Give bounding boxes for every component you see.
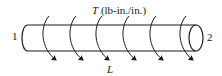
left-end-cap: [22, 25, 28, 51]
shaft-cylinder: [22, 25, 203, 51]
right-end-face: [189, 25, 203, 51]
torque-arrows: [43, 16, 193, 60]
torque-arrow-icon: [150, 16, 163, 60]
torque-symbol: T: [92, 4, 98, 16]
torque-arrow-icon: [123, 16, 136, 60]
torque-arrow-icon: [180, 16, 193, 60]
torque-arrow-icon: [43, 16, 56, 60]
torque-arrow-icon: [96, 16, 109, 60]
torque-arrow-icon: [70, 16, 83, 60]
length-label: L: [107, 64, 113, 75]
distributed-torque-label: T (lb-in./in.): [92, 5, 146, 16]
torque-units: (lb-in./in.): [101, 4, 146, 16]
end-label-1: 1: [12, 31, 18, 42]
distributed-torque-shaft-diagram: T (lb-in./in.) 1 2 L: [0, 0, 222, 76]
end-label-2: 2: [207, 32, 213, 43]
